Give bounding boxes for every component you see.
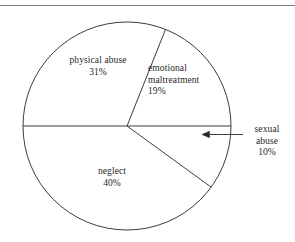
slice-label-sexual-abuse: sexual abuse 10% (241, 124, 293, 159)
slice-label-neglect-name: neglect (62, 166, 162, 178)
slice-label-emotional-maltreatment-name-1: emotional (148, 63, 224, 75)
slice-label-physical-abuse-value: 31% (46, 67, 150, 79)
slice-label-neglect-value: 40% (62, 178, 162, 190)
slice-label-sexual-abuse-value: 10% (241, 147, 293, 159)
slice-label-physical-abuse: physical abuse 31% (46, 55, 150, 78)
slice-label-physical-abuse-name: physical abuse (46, 55, 150, 67)
slice-label-neglect: neglect 40% (62, 166, 162, 189)
slice-label-emotional-maltreatment-value: 19% (148, 86, 224, 98)
pie-chart-canvas (0, 0, 295, 242)
pie-chart-figure: physical abuse 31% emotional maltreatmen… (0, 0, 295, 242)
slice-label-sexual-abuse-name-1: sexual (241, 124, 293, 136)
slice-label-emotional-maltreatment: emotional maltreatment 19% (148, 63, 224, 98)
slice-label-emotional-maltreatment-name-2: maltreatment (148, 75, 224, 87)
slice-label-sexual-abuse-name-2: abuse (241, 136, 293, 148)
